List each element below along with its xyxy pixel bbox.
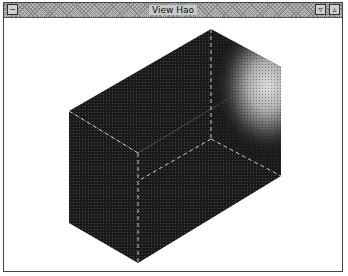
minimize-button[interactable]: ▿ (315, 4, 326, 15)
maximize-button[interactable]: ▵ (329, 4, 340, 15)
window-title: View Hao (4, 3, 342, 17)
render-viewport[interactable] (4, 18, 342, 271)
maximize-icon: ▵ (332, 5, 336, 14)
title-bar[interactable]: − View Hao ▿ ▵ (4, 3, 342, 18)
view-window: − View Hao ▿ ▵ (3, 2, 343, 272)
minimize-icon: ▿ (318, 5, 322, 14)
shaded-box-render (4, 18, 344, 273)
